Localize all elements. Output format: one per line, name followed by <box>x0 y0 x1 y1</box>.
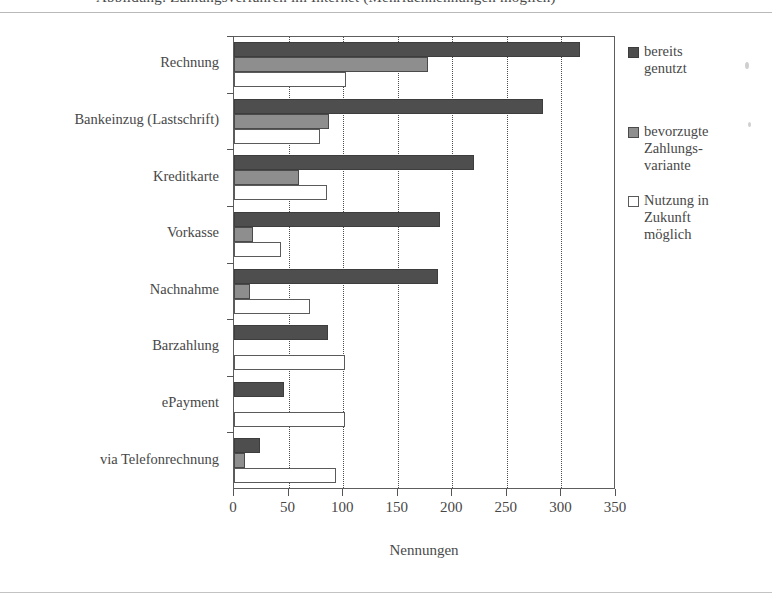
plot-area <box>233 36 615 489</box>
bar <box>234 72 346 87</box>
x-axis-tick-label: 350 <box>585 499 645 516</box>
x-axis-tick-label: 250 <box>476 499 536 516</box>
x-axis-tick-label: 200 <box>421 499 481 516</box>
x-axis-ticks <box>233 489 615 496</box>
legend-swatch-icon <box>628 127 639 138</box>
legend-label: Nutzung in Zukunft möglich <box>644 192 758 243</box>
bar <box>234 42 580 57</box>
y-axis-label: Kreditkarte <box>153 169 219 184</box>
y-axis-tick <box>227 93 234 94</box>
bar <box>234 129 320 144</box>
x-axis-tick-labels: 050100150200250300350 <box>183 499 665 521</box>
bar <box>234 57 428 72</box>
bar <box>234 242 281 257</box>
y-axis-tick <box>227 36 234 37</box>
bar <box>234 212 440 227</box>
bar <box>234 355 345 370</box>
x-axis-tick-label: 0 <box>203 499 263 516</box>
bar <box>234 269 438 284</box>
bar <box>234 325 328 340</box>
figure-page: Abbildung: Zahlungsverfahren im Internet… <box>0 0 772 609</box>
bar <box>234 438 260 453</box>
bar <box>234 170 299 185</box>
y-axis-label: ePayment <box>162 395 219 410</box>
x-axis-tick-label: 150 <box>367 499 427 516</box>
x-axis-title: Nennungen <box>233 542 615 559</box>
y-axis-label: Nachnahme <box>150 282 219 297</box>
figure-title: Abbildung: Zahlungsverfahren im Internet… <box>96 0 696 5</box>
bar-group <box>234 40 614 97</box>
bar <box>234 114 329 129</box>
legend-label: bereits genutzt <box>644 43 758 77</box>
legend-label: bevorzugte Zahlungs- variante <box>644 123 758 174</box>
y-axis-category-labels: RechnungBankeinzug (Lastschrift)Kreditka… <box>8 36 227 489</box>
bar-group <box>234 380 614 437</box>
x-axis-tick <box>506 489 507 496</box>
y-axis-tick <box>227 263 234 264</box>
y-axis-label: Barzahlung <box>152 338 219 353</box>
y-axis-label: via Telefonrechnung <box>100 452 219 467</box>
bar-group <box>234 210 614 267</box>
bar-group <box>234 267 614 324</box>
y-axis-tick <box>227 376 234 377</box>
scan-speck <box>745 62 749 69</box>
x-axis-tick <box>288 489 289 496</box>
y-axis-tick <box>227 432 234 433</box>
x-axis-tick <box>233 489 234 496</box>
bar-group <box>234 97 614 154</box>
x-axis-tick <box>451 489 452 496</box>
page-rule-top <box>0 12 772 13</box>
bar <box>234 468 336 483</box>
bar <box>234 284 250 299</box>
page-rule-bottom <box>0 592 772 593</box>
bar <box>234 382 284 397</box>
y-axis-tick <box>227 149 234 150</box>
scan-speck <box>748 122 751 127</box>
y-axis-label: Rechnung <box>160 55 219 70</box>
bar-group <box>234 323 614 380</box>
bar-group <box>234 153 614 210</box>
x-axis-tick <box>397 489 398 496</box>
x-axis-tick <box>615 489 616 496</box>
bar <box>234 227 253 242</box>
bar <box>234 412 345 427</box>
bar-group <box>234 436 614 493</box>
y-axis-label: Vorkasse <box>167 225 219 240</box>
legend-swatch-icon <box>628 196 639 207</box>
bar <box>234 299 310 314</box>
bar <box>234 99 543 114</box>
bar <box>234 185 327 200</box>
y-axis-tick <box>227 206 234 207</box>
legend-swatch-icon <box>628 47 639 58</box>
x-axis-tick <box>560 489 561 496</box>
y-axis-label: Bankeinzug (Lastschrift) <box>74 112 219 127</box>
x-axis-tick <box>342 489 343 496</box>
y-axis-tick <box>227 319 234 320</box>
x-axis-tick-label: 100 <box>312 499 372 516</box>
bar <box>234 155 474 170</box>
x-axis-tick-label: 50 <box>258 499 318 516</box>
x-axis-tick-label: 300 <box>530 499 590 516</box>
bar <box>234 453 245 468</box>
